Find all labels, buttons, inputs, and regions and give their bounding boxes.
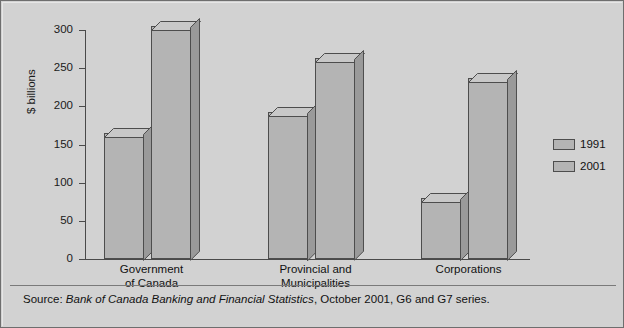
y-axis-line [85, 30, 86, 260]
bar-2001-2 [468, 78, 508, 259]
bar-1991-2 [421, 198, 461, 259]
source-prefix: Source: [23, 293, 66, 305]
bar-top-face [268, 104, 306, 113]
source-suffix: , October 2001, G6 and G7 series. [314, 293, 490, 305]
bar-side-face [354, 50, 364, 262]
bar-side-face [507, 70, 517, 262]
legend-label: 2001 [580, 160, 606, 172]
y-tick-mark [79, 221, 85, 222]
bar-top-face [151, 18, 189, 27]
bar-top-face [315, 50, 353, 59]
bar-top-face [421, 190, 459, 199]
legend-label: 1991 [580, 138, 606, 150]
chart-figure: 050100150200250300 $ billions Government… [0, 0, 624, 328]
y-tick-label: 250 [54, 62, 73, 73]
bar-top-face [104, 125, 142, 134]
chart-legend: 19912001 [553, 135, 606, 179]
bar-top-face [468, 70, 506, 79]
y-tick-mark [79, 145, 85, 146]
bar-side-face [190, 18, 200, 262]
source-publication: Bank of Canada Banking and Financial Sta… [66, 293, 314, 305]
footer-divider [10, 285, 616, 286]
y-tick-label: 50 [60, 215, 73, 226]
y-axis-title: $ billions [25, 69, 37, 114]
y-tick-label: 150 [54, 139, 73, 150]
source-note: Source: Bank of Canada Banking and Finan… [23, 293, 490, 305]
bar-2001-1 [315, 58, 355, 259]
legend-item-2001: 2001 [553, 157, 606, 175]
y-tick-mark [79, 259, 85, 260]
bar-2001-0 [151, 26, 191, 259]
y-tick-label: 300 [54, 24, 73, 35]
bar-1991-1 [268, 112, 308, 259]
y-tick-label: 0 [67, 253, 73, 264]
y-tick-mark [79, 68, 85, 69]
bar-1991-0 [104, 133, 144, 259]
y-tick-mark [79, 30, 85, 31]
category-label-2: Corporations [399, 263, 539, 277]
plot-area: 050100150200250300 $ billions Government… [1, 1, 624, 283]
y-tick-label: 200 [54, 100, 73, 111]
legend-item-1991: 1991 [553, 135, 606, 153]
legend-swatch-icon [553, 139, 575, 150]
legend-swatch-icon [553, 161, 575, 172]
y-tick-label: 100 [54, 177, 73, 188]
y-tick-mark [79, 106, 85, 107]
y-tick-mark [79, 183, 85, 184]
